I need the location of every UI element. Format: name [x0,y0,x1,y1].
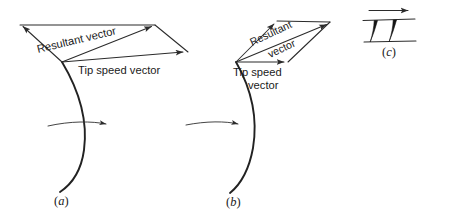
panel-c-caption: (c) [382,45,396,59]
panel-a: Resultant vector Tip speed vector (a) [20,24,188,208]
panel-a-blade-arc [60,62,85,192]
panel-b: Resultant vector Tip speed vector (b) [186,18,330,209]
panel-c-upper-boundary [363,19,415,21]
figure-canvas: Resultant vector Tip speed vector (a) Re… [0,0,452,217]
panel-a-rotation-arrow [48,122,106,126]
panel-a-parallelogram-right-edge [155,25,188,52]
vector-diagram: Resultant vector Tip speed vector (a) Re… [0,0,452,217]
panel-a-resultant-label: Resultant vector [36,24,118,55]
panel-b-tip-speed-label-line2: vector [248,79,279,91]
panel-a-tip-speed-vector [62,52,183,62]
panel-b-caption: (b) [226,195,241,209]
panel-b-resultant-label-line2: vector [266,37,298,60]
panel-c-lower-boundary [364,41,416,42]
panel-a-tip-speed-label: Tip speed vector [78,64,161,76]
panel-b-rotation-arrow [186,122,238,125]
panel-b-tip-speed-label-line1: Tip speed [233,66,282,78]
panel-a-caption: (a) [54,194,69,208]
panel-c-blade-1 [370,21,377,43]
panel-c-blade-2 [389,20,396,42]
panel-c: (c) [363,11,416,60]
